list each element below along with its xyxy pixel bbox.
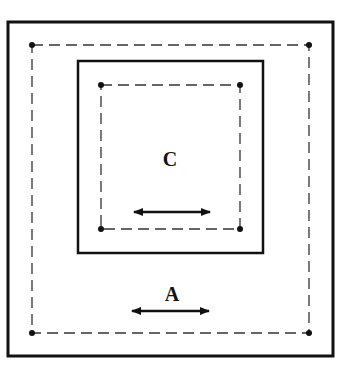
outer-square (8, 22, 333, 356)
nested-squares-diagram: C A (0, 0, 342, 377)
label-c: C (163, 148, 177, 170)
label-a: A (165, 283, 180, 305)
